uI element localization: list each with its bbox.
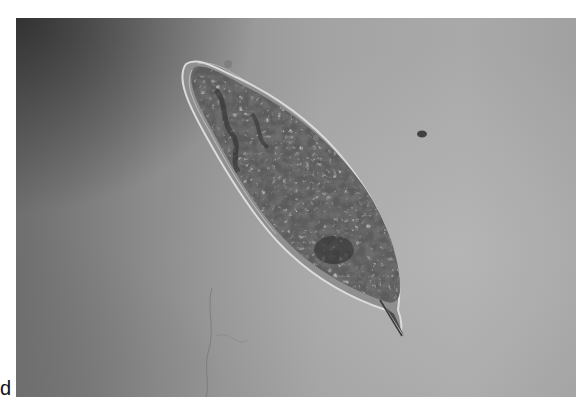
debris-particle: [417, 131, 427, 138]
panel-label: d: [0, 377, 11, 399]
nucleus: [314, 236, 354, 264]
cell-illustration: [16, 18, 576, 397]
micrograph-image: [16, 18, 576, 397]
figure-panel: d: [0, 0, 584, 406]
